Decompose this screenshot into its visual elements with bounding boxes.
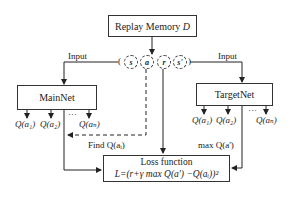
max-q-label: max Q(a') <box>198 141 234 150</box>
tuple-state: s <box>124 55 138 69</box>
tuple-action: a <box>140 55 154 69</box>
replay-memory-symbol: D <box>183 21 190 32</box>
targetnet-input-label: Input <box>218 52 237 61</box>
targetnet-output-n: Q(aₙ) <box>256 116 277 125</box>
mainnet-output-1: Q(a₁) <box>15 120 35 129</box>
tuple-next-state: s' <box>173 55 187 69</box>
find-q-label: Find Q(aᵢ) <box>88 141 125 150</box>
targetnet-label: TargetNet <box>215 89 255 100</box>
replay-memory-label: Replay Memory <box>115 21 180 32</box>
targetnet-box: TargetNet <box>196 83 273 106</box>
mainnet-output-ellipsis: … <box>68 108 77 117</box>
tuple-close: ) <box>188 57 191 66</box>
mainnet-box: MainNet <box>17 85 97 110</box>
tuple-open: ( <box>118 57 121 66</box>
replay-memory-box: Replay Memory D <box>108 15 197 37</box>
targetnet-output-1: Q(a₁) <box>192 116 212 125</box>
targetnet-output-ellipsis: … <box>248 104 257 113</box>
targetnet-output-2: Q(a₂) <box>216 116 236 125</box>
loss-title: Loss function <box>141 157 193 169</box>
mainnet-input-label: Input <box>68 52 87 61</box>
tuple-reward: r <box>157 55 171 69</box>
mainnet-label: MainNet <box>39 92 75 103</box>
mainnet-output-2: Q(a₂) <box>40 120 60 129</box>
mainnet-output-n: Q(aₙ) <box>79 120 100 129</box>
loss-function-box: Loss function L=(r+γ max Q(a') −Q(aᵢ))² <box>103 155 230 182</box>
loss-formula: L=(r+γ max Q(a') −Q(aᵢ))² <box>115 169 219 181</box>
